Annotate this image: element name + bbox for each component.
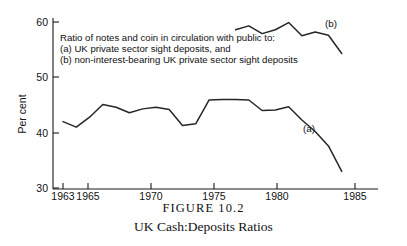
series-label-b: (b) xyxy=(325,18,337,29)
figure-title: UK Cash:Deposits Ratios xyxy=(0,219,407,235)
y-tick-label-40: 40 xyxy=(36,127,48,139)
y-tick-label-50: 50 xyxy=(36,71,48,83)
y-tick-label-30: 30 xyxy=(36,182,48,194)
y-axis-title: Per cent xyxy=(16,94,28,133)
figure-number: FIGURE 10.2 xyxy=(0,201,407,216)
series-label-a: (a) xyxy=(303,123,315,134)
legend-line-2: (a) UK private sector sight deposits, an… xyxy=(60,43,231,54)
legend-line-1: Ratio of notes and coin in circulation w… xyxy=(60,32,275,43)
legend-line-3: (b) non-interest-bearing UK private sect… xyxy=(60,54,298,65)
y-tick-label-60: 60 xyxy=(36,16,48,28)
figure-container: 30 40 50 60 Per cent 1963 1965 1970 1975… xyxy=(0,0,407,246)
series-line-a xyxy=(63,99,342,171)
